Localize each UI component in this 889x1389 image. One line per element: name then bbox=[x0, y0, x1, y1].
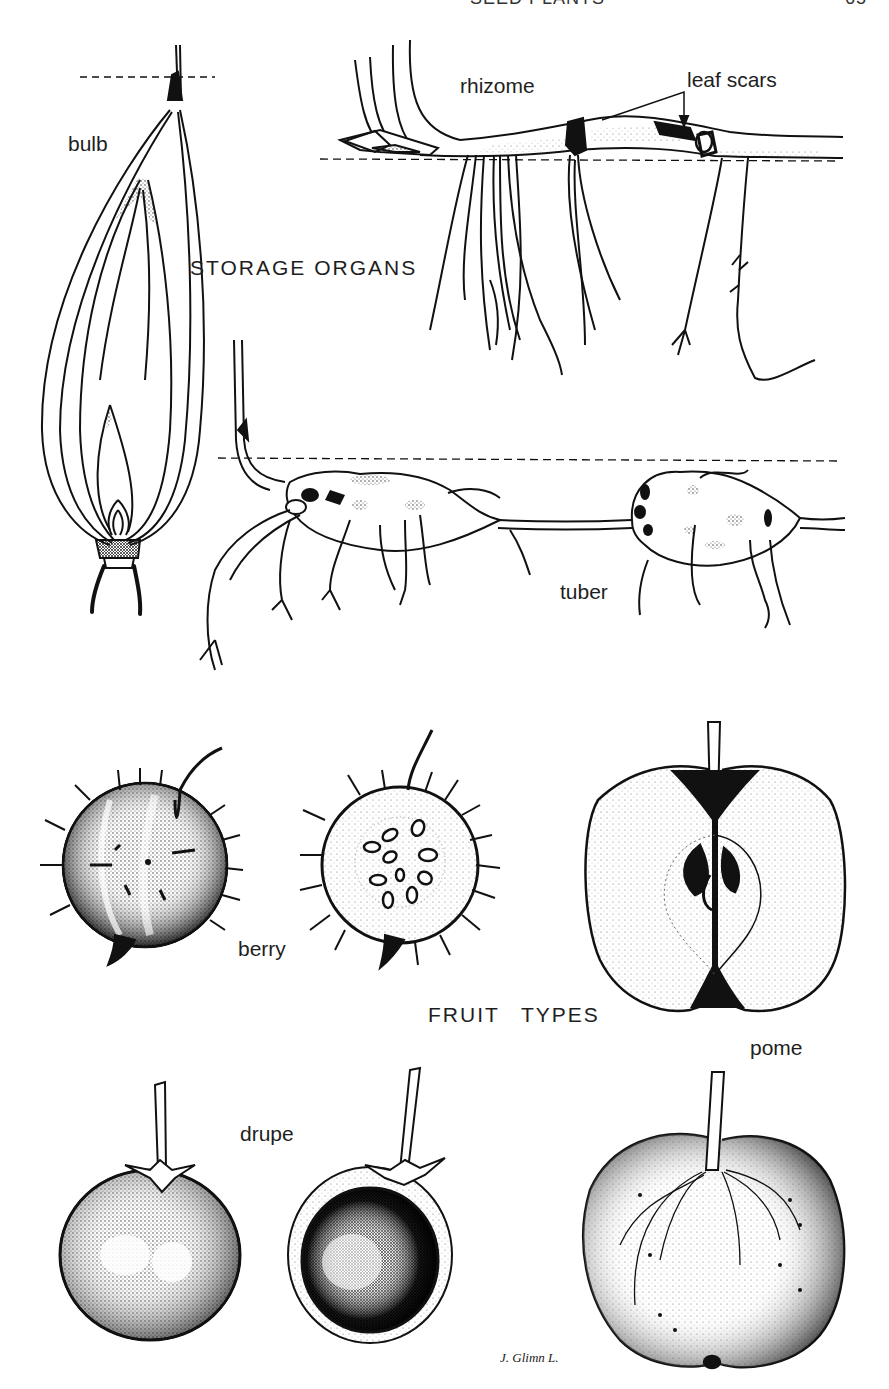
pome-whole-drawing bbox=[583, 1072, 844, 1368]
drupe-whole-drawing bbox=[60, 1082, 240, 1340]
drupe-section-drawing bbox=[288, 1068, 452, 1343]
label-rhizome: rhizome bbox=[460, 74, 535, 98]
bulb-drawing bbox=[42, 45, 215, 614]
section-title-fruit-types: FRUIT TYPES bbox=[428, 1003, 600, 1027]
tuber-drawing bbox=[200, 340, 845, 670]
berry-section-drawing bbox=[300, 730, 500, 968]
berry-whole-drawing bbox=[40, 748, 243, 965]
botanical-plate: SEED PLANTS 65 bbox=[0, 0, 889, 1389]
label-bulb: bulb bbox=[68, 132, 108, 156]
label-leaf-scars: leaf scars bbox=[687, 68, 777, 92]
label-berry: berry bbox=[238, 937, 286, 961]
artist-signature: J. Glimn L. bbox=[500, 1350, 559, 1366]
label-pome: pome bbox=[750, 1036, 803, 1060]
label-tuber: tuber bbox=[560, 580, 608, 604]
pome-section-drawing bbox=[585, 722, 845, 1011]
illustration-svg bbox=[0, 0, 889, 1389]
section-title-storage-organs: STORAGE ORGANS bbox=[190, 256, 417, 280]
label-drupe: drupe bbox=[240, 1122, 294, 1146]
